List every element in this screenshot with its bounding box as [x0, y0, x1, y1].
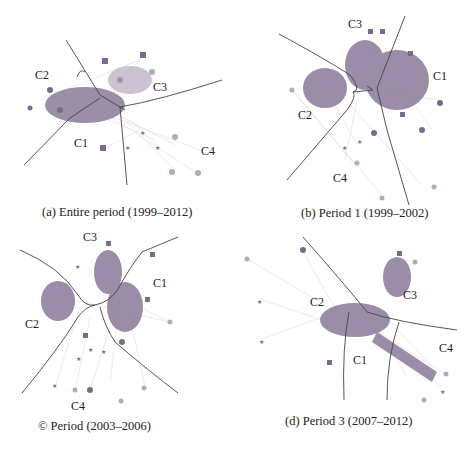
svg-text:★: ★: [140, 130, 145, 136]
panel-caption-c: © Period (2003–2006): [38, 419, 151, 434]
network-graph-a: ★★ ★: [0, 0, 237, 227]
cluster-label-c3: C3: [348, 17, 362, 32]
panel-caption-d: (d) Period 3 (2007–2012): [285, 414, 412, 429]
cluster-label-c2: C2: [35, 68, 49, 83]
svg-text:★: ★: [88, 347, 93, 353]
panel-c: ★★ ★★ ★ C3 C1 C2 C4 © Period (2003–2006): [0, 227, 237, 454]
svg-text:★: ★: [75, 264, 80, 270]
svg-text:★: ★: [259, 339, 264, 345]
cluster-label-c1: C1: [353, 353, 367, 368]
cluster-label-c2: C2: [298, 108, 312, 123]
svg-text:★: ★: [155, 145, 160, 151]
cluster-label-c2: C2: [25, 317, 39, 332]
panel-b: ★★ C3 C1 C2 C4 (b) Period 1 (1999–2002): [237, 0, 474, 227]
cluster-label-c1: C1: [433, 69, 447, 84]
network-graph-b: ★★: [237, 0, 474, 227]
cluster-label-c4: C4: [201, 144, 215, 159]
svg-text:★: ★: [101, 349, 106, 355]
panel-caption-a: (a) Entire period (1999–2012): [42, 205, 192, 220]
svg-text:★: ★: [440, 389, 445, 395]
cluster-label-c2: C2: [310, 295, 324, 310]
cluster-label-c4: C4: [71, 399, 85, 414]
cluster-label-c3: C3: [153, 80, 167, 95]
cluster-label-c4: C4: [333, 171, 347, 186]
cluster-label-c1: C1: [74, 136, 88, 151]
svg-text:★: ★: [257, 299, 262, 305]
cluster-label-c3: C3: [403, 288, 417, 303]
panel-caption-b: (b) Period 1 (1999–2002): [301, 206, 428, 221]
cluster-label-c4: C4: [439, 341, 453, 356]
svg-text:★: ★: [342, 145, 347, 151]
panel-d: ★★ ★ C2 C3 C1 C4 (d) Period 3 (2007–2012…: [237, 227, 474, 454]
svg-text:★: ★: [357, 139, 362, 145]
svg-text:★: ★: [125, 145, 130, 151]
cluster-label-c3: C3: [83, 230, 97, 245]
panel-a: ★★ ★ C2 C3 C1 C4 (a) Entire period (1999…: [0, 0, 237, 227]
cluster-label-c1: C1: [153, 276, 167, 291]
svg-text:★: ★: [76, 356, 81, 362]
svg-text:★: ★: [52, 383, 57, 389]
